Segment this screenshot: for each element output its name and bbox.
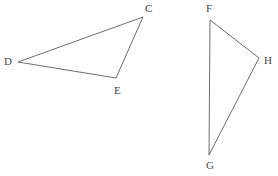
- vertex-label-c: C: [145, 3, 152, 14]
- geometry-figure-canvas: C D E F H G: [0, 0, 278, 176]
- vertex-label-d: D: [4, 56, 12, 67]
- geometry-figure-svg: [0, 0, 278, 176]
- vertex-label-f: F: [206, 3, 212, 14]
- triangle-cde-shape: [18, 17, 143, 78]
- vertex-label-h: H: [264, 55, 272, 66]
- vertex-label-g: G: [206, 160, 214, 171]
- triangle-fgh-shape: [209, 20, 259, 155]
- vertex-label-e: E: [114, 85, 121, 96]
